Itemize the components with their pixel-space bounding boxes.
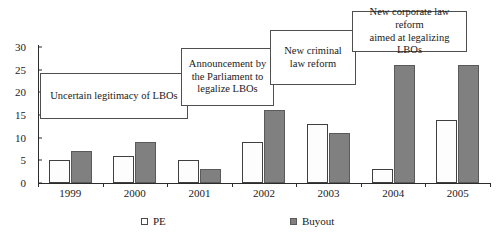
annotation-uncertain-legitimacy: Uncertain legitimacy of LBOs: [40, 73, 188, 119]
bar-pe-1999: [49, 160, 70, 183]
bar-pe-2003: [307, 124, 328, 183]
x-tick-mark: [361, 183, 362, 187]
bar-buyout-2004: [394, 65, 415, 183]
annotation-criminal-law-reform: New criminal law reform: [270, 30, 356, 85]
buyout-swatch: [290, 218, 297, 225]
x-tick-mark: [296, 183, 297, 187]
x-tick-mark: [425, 183, 426, 187]
x-tick-mark: [232, 183, 233, 187]
chart-legend: PEBuyout: [0, 216, 497, 232]
annotation-text: New criminal law reform: [284, 45, 341, 71]
bar-buyout-2000: [135, 142, 156, 183]
y-tick-label: 15: [0, 110, 32, 121]
bar-buyout-2001: [200, 169, 221, 183]
legend-entry-buyout[interactable]: Buyout: [290, 216, 334, 227]
bar-pe-2002: [242, 142, 263, 183]
annotation-parliament-announcement: Announcement by the Parliament to legali…: [181, 48, 274, 106]
bar-buyout-2002: [264, 110, 285, 183]
bar-group: [361, 44, 426, 183]
annotation-text: New corporate law reform aimed at legali…: [358, 6, 461, 57]
bar-pe-2005: [436, 120, 457, 183]
x-tick-label-2000: 2000: [124, 188, 146, 199]
y-tick-label: 5: [0, 155, 32, 166]
x-tick-label-2005: 2005: [447, 188, 469, 199]
bar-pe-2000: [113, 156, 134, 183]
y-tick-label: 10: [0, 132, 32, 143]
x-tick-mark: [103, 183, 104, 187]
bar-buyout-1999: [71, 151, 92, 183]
x-tick-label-2001: 2001: [188, 188, 210, 199]
x-tick-label-2004: 2004: [382, 188, 404, 199]
legend-label: PE: [153, 216, 166, 227]
y-tick-label: 0: [0, 178, 32, 189]
x-tick-mark: [167, 183, 168, 187]
annotation-text: Announcement by the Parliament to legali…: [189, 58, 266, 96]
y-tick-label: 25: [0, 64, 32, 75]
annotation-text: Uncertain legitimacy of LBOs: [50, 90, 177, 103]
bar-buyout-2003: [329, 133, 350, 183]
x-axis-line: [38, 183, 490, 184]
legend-entry-pe[interactable]: PE: [141, 216, 166, 227]
bar-buyout-2005: [458, 65, 479, 183]
bar-group: [425, 44, 490, 183]
x-tick-label-1999: 1999: [59, 188, 81, 199]
bar-pe-2001: [178, 160, 199, 183]
pe-swatch: [141, 218, 148, 225]
x-tick-label-2002: 2002: [253, 188, 275, 199]
x-tick-mark: [38, 183, 39, 187]
x-tick-mark: [490, 183, 491, 187]
y-tick-label: 30: [0, 42, 32, 53]
bar-pe-2004: [372, 169, 393, 183]
annotation-corporate-law-reform: New corporate law reform aimed at legali…: [352, 11, 467, 52]
bar-chart-figure: 051015202530 199920002001200220032004200…: [0, 0, 497, 242]
y-tick-label: 20: [0, 87, 32, 98]
legend-label: Buyout: [302, 216, 334, 227]
x-tick-label-2003: 2003: [318, 188, 340, 199]
